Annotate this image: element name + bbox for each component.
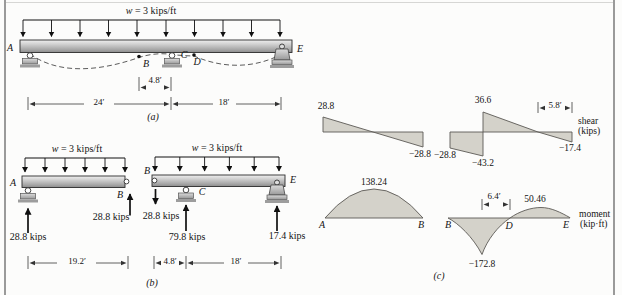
dim-label-ce: 18′	[219, 98, 230, 107]
dim-label-ab: 19.2′	[68, 257, 86, 266]
support-shadow	[162, 65, 182, 68]
point-label-d: D	[193, 57, 200, 68]
load-eq: = 3 kips/ft	[198, 142, 242, 153]
shear-diagram-left	[323, 117, 423, 147]
point-label-c: C	[181, 50, 188, 61]
load-arrows	[23, 20, 280, 37]
support-shadow	[20, 65, 40, 68]
dim-arrowhead	[274, 261, 280, 265]
dim-arrowhead	[173, 102, 179, 106]
shear-area	[323, 117, 373, 132]
point-label-e: E	[297, 44, 303, 55]
support-shadow	[176, 199, 196, 202]
support-shadow	[265, 200, 289, 203]
hinge-pin-b	[124, 179, 129, 184]
inflection-dot-b	[137, 55, 141, 59]
dim-arrowhead	[121, 261, 127, 265]
dim-arrowhead	[275, 102, 281, 106]
dimension-arrowheads-a	[30, 85, 281, 106]
shear-dim-label: 5.8′	[548, 101, 561, 110]
dim-arrowhead	[141, 85, 147, 89]
reaction-label-e: 17.4 kips	[269, 231, 306, 242]
point-label-b: B	[144, 166, 150, 177]
point-label-d: D	[505, 221, 512, 232]
dim-arrowhead	[156, 261, 162, 265]
point-label-b: B	[445, 220, 451, 231]
dim-arrowhead	[188, 261, 194, 265]
roller-support-a	[20, 53, 40, 68]
load-eq: = 3 kips/ft	[58, 143, 102, 154]
hinge-pin-b	[152, 178, 157, 183]
shear-value-min: −43.2	[472, 159, 494, 169]
dim-arrowhead	[503, 202, 509, 206]
point-label-a: A	[7, 43, 13, 54]
dim-label-bc: 4.8′	[163, 257, 176, 266]
caption-c: (c)	[433, 271, 444, 282]
load-eq: = 3 kips/ft	[132, 5, 176, 16]
moment-value-peak-left: 138.24	[361, 178, 387, 188]
reaction-label-c: 79.8 kips	[169, 232, 206, 243]
load-arrows	[155, 157, 279, 171]
dim-label-ce: 18′	[231, 257, 242, 266]
point-label-a: A	[319, 220, 325, 231]
shear-diagram-right	[450, 112, 572, 156]
load-arrows	[25, 158, 125, 172]
reaction-label-b: 28.8 kips	[93, 212, 130, 223]
beam-rect	[152, 175, 285, 187]
support-shadow	[18, 200, 38, 203]
shear-area	[373, 132, 423, 147]
reaction-label-a: 28.8 kips	[10, 232, 47, 243]
load-var: w	[192, 142, 199, 153]
shear-value-max: 36.6	[475, 96, 492, 106]
point-label-e: E	[563, 220, 569, 231]
moment-dim-label: 6.4′	[487, 192, 500, 201]
deflection-curve	[30, 54, 280, 69]
shear-area	[483, 112, 538, 132]
load-var: w	[52, 143, 59, 154]
roller-support-c	[176, 187, 196, 202]
dim-label-bc: 4.8′	[148, 76, 161, 85]
figure-canvas: w = 3 kips/ft A E C B D 4.8′ 24′ 18′ (a)…	[0, 0, 622, 295]
dim-arrowhead	[30, 102, 36, 106]
dim-arrowhead	[164, 85, 170, 89]
beam-rect	[20, 40, 292, 53]
shear-value-end-left: −28.8	[409, 150, 431, 160]
load-label-fbd-right: w = 3 kips/ft	[192, 143, 242, 154]
dim-arrowhead	[565, 106, 571, 110]
dim-label-ac: 24′	[94, 98, 105, 107]
caption-b: (b)	[146, 278, 158, 289]
point-label-e: E	[290, 175, 296, 186]
dim-arrowhead	[484, 202, 490, 206]
point-label-a: A	[10, 178, 16, 189]
point-label-b: B	[418, 220, 424, 231]
support-shadow	[270, 65, 294, 68]
point-label-c: C	[199, 187, 206, 198]
force-label-b: 28.8 kips	[143, 211, 180, 222]
caption-a: (a)	[147, 112, 159, 123]
dim-arrowhead	[179, 261, 185, 265]
load-label-fbd-left: w = 3 kips/ft	[52, 144, 102, 155]
dim-arrowhead	[540, 106, 546, 110]
dim-arrowhead	[30, 261, 36, 265]
beam-a-diagram	[20, 20, 294, 110]
moment-axis-units: (kip·ft)	[580, 220, 607, 230]
dim-arrowhead	[164, 102, 170, 106]
shear-axis-units: (kips)	[578, 127, 600, 137]
shear-area	[538, 132, 572, 142]
moment-value-min: −172.8	[469, 260, 496, 270]
point-label-b: B	[117, 190, 123, 201]
load-label-a: w = 3 kips/ft	[126, 6, 176, 17]
moment-value-peak-right: 50.46	[524, 195, 545, 205]
moment-diagram-left	[325, 189, 423, 218]
shear-value-end-right: −17.4	[559, 144, 581, 154]
load-var: w	[126, 5, 133, 16]
beam-rect	[22, 176, 125, 188]
shear-value-start-left: 28.8	[318, 102, 335, 112]
point-label-b: B	[143, 59, 149, 70]
shear-value-start-right: −28.8	[434, 151, 456, 161]
roller-support-a	[18, 188, 38, 203]
